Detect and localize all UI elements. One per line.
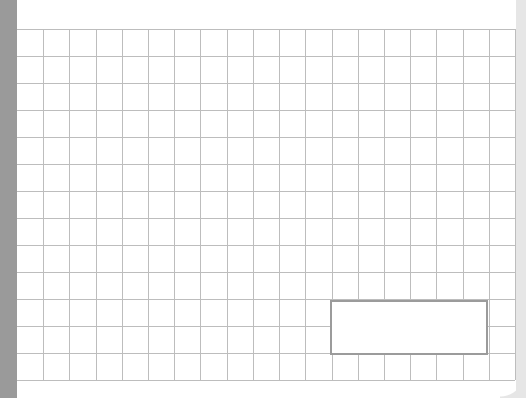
grid-row-line bbox=[17, 110, 515, 111]
grid-row-line bbox=[17, 272, 515, 273]
grid-column-line bbox=[489, 29, 490, 380]
grid-row-line bbox=[17, 29, 515, 30]
grid-column-line bbox=[515, 29, 516, 380]
grid-row-line bbox=[17, 380, 515, 381]
grid-column-line bbox=[279, 29, 280, 380]
grid-column-line bbox=[200, 29, 201, 380]
right-scroll-edge[interactable] bbox=[516, 0, 526, 398]
selection-box[interactable] bbox=[330, 300, 488, 355]
grid-column-line bbox=[69, 29, 70, 380]
grid-column-line bbox=[43, 29, 44, 380]
grid-row-line bbox=[17, 83, 515, 84]
grid-row-line bbox=[17, 137, 515, 138]
grid-row-line bbox=[17, 245, 515, 246]
selection-label bbox=[332, 302, 486, 310]
grid-row-line bbox=[17, 164, 515, 165]
grid-row-line bbox=[17, 56, 515, 57]
grid-column-line bbox=[174, 29, 175, 380]
grid-column-line bbox=[122, 29, 123, 380]
grid-row-line bbox=[17, 191, 515, 192]
grid-column-line bbox=[227, 29, 228, 380]
grid-column-line bbox=[305, 29, 306, 380]
grid-column-line bbox=[96, 29, 97, 380]
grid-column-line bbox=[253, 29, 254, 380]
left-scroll-edge bbox=[0, 0, 17, 398]
grid-row-line bbox=[17, 218, 515, 219]
grid-column-line bbox=[148, 29, 149, 380]
